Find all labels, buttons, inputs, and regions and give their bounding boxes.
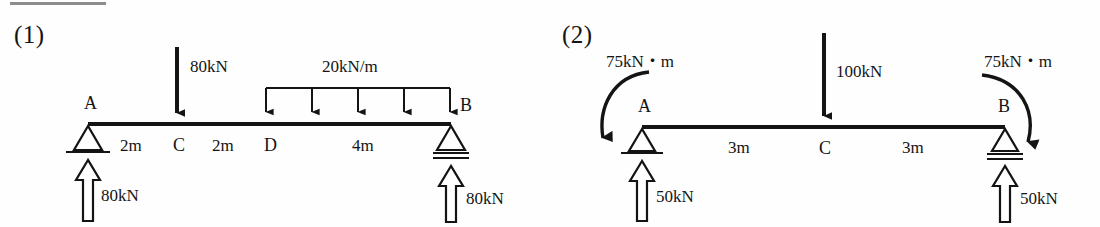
reaction-label-b: 80kN	[466, 190, 504, 207]
dimension-label-ac: 3m	[728, 139, 750, 156]
node-label-c: C	[819, 139, 831, 157]
reaction-label-a: 80kN	[101, 187, 139, 204]
node-label-a: A	[638, 97, 651, 115]
reaction-arrow-b	[439, 166, 463, 222]
reaction-label-a: 50kN	[656, 188, 694, 205]
reaction-arrow-a	[630, 161, 654, 221]
reaction-label-b: 50kN	[1020, 190, 1058, 207]
diagram-sheet: (1)	[0, 0, 1100, 227]
support-b-roller	[987, 129, 1023, 159]
reaction-arrow-a	[76, 160, 100, 221]
dimension-label-cb: 3m	[902, 139, 924, 156]
node-label-b: B	[460, 96, 472, 114]
dimension-label-ac: 2m	[120, 137, 142, 154]
dimension-label-cd: 2m	[212, 137, 234, 154]
figure-2: (2)	[550, 0, 1100, 227]
point-load-label-c: 80kN	[190, 58, 228, 75]
dimension-label-db: 4m	[352, 137, 374, 154]
moment-label-b: 75kN・m	[984, 53, 1052, 70]
node-label-c: C	[173, 136, 185, 154]
node-label-a: A	[84, 94, 97, 112]
moment-label-a: 75kN・m	[606, 53, 674, 70]
support-a-pin	[621, 129, 663, 153]
figure-2-graphics	[550, 0, 1100, 227]
point-load-label-c: 100kN	[836, 63, 882, 80]
node-label-d: D	[264, 136, 277, 154]
node-label-b: B	[998, 97, 1010, 115]
distributed-load-label: 20kN/m	[322, 58, 378, 75]
support-b-roller	[433, 126, 469, 158]
reaction-arrow-b	[993, 166, 1017, 222]
figure-1: (1)	[0, 0, 550, 227]
distributed-load-group	[266, 88, 450, 112]
support-a-pin	[66, 126, 110, 152]
